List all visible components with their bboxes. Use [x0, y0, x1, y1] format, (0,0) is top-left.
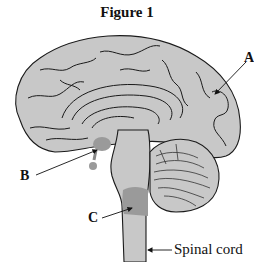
region-c-medulla: [122, 187, 148, 216]
arrow-b: [36, 150, 97, 175]
label-b: B: [20, 168, 29, 184]
label-a: A: [244, 50, 254, 66]
brain-diagram: [0, 0, 254, 262]
label-spinal-cord: Spinal cord: [174, 241, 243, 258]
label-c: C: [88, 210, 98, 226]
pituitary: [89, 162, 97, 170]
region-b-hypothalamus: [93, 137, 111, 151]
